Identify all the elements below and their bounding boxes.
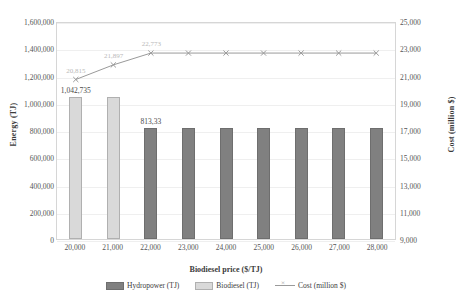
- x-tick-label: 27,000: [320, 243, 358, 252]
- x-tick-label: 24,000: [207, 243, 245, 252]
- legend-item[interactable]: Cost (million $): [275, 281, 346, 290]
- y-tick-label-right: 15,000: [400, 154, 421, 163]
- y-tick-label-right: 23,000: [400, 45, 421, 54]
- cost-value-label: 21,897: [104, 52, 123, 60]
- cost-value-label: 20,815: [66, 67, 85, 75]
- x-tick-label: 23,000: [169, 243, 207, 252]
- legend-line-swatch: [275, 282, 295, 289]
- y-axis-ticks-right: 9,00011,00013,00015,00017,00019,00021,00…: [398, 22, 444, 240]
- x-tick-label: 22,000: [132, 243, 170, 252]
- x-axis-title: Biodiesel price ($/TJ): [56, 265, 396, 274]
- y-axis-title-right: Cost (million $): [447, 80, 456, 170]
- x-tick-label: 25,000: [245, 243, 283, 252]
- x-tick-label: 28,000: [358, 243, 396, 252]
- x-tick-label: 21,000: [94, 243, 132, 252]
- y-tick-label-right: 11,000: [400, 208, 420, 217]
- y-tick-label-right: 13,000: [400, 181, 421, 190]
- legend-swatch-biodiesel: [195, 282, 213, 290]
- legend-label: Biodiesel (TJ): [216, 281, 259, 290]
- y-axis-ticks-left: 0200,000400,000600,000800,0001,000,0001,…: [8, 22, 54, 240]
- y-tick-label-right: 9,000: [400, 236, 417, 245]
- y-tick-label-right: 19,000: [400, 99, 421, 108]
- gridline: [57, 241, 395, 242]
- y-tick-label-right: 17,000: [400, 127, 421, 136]
- y-tick-label-left: 1,000,000: [24, 99, 54, 108]
- legend-label: Cost (million $): [298, 281, 346, 290]
- x-tick-label: 20,000: [56, 243, 94, 252]
- y-tick-label-left: 600,000: [30, 154, 54, 163]
- y-tick-label-left: 400,000: [30, 181, 54, 190]
- y-tick-label-right: 25,000: [400, 18, 421, 27]
- legend-label: Hydropower (TJ): [127, 281, 179, 290]
- y-tick-label-left: 800,000: [30, 127, 54, 136]
- y-tick-label-left: 1,400,000: [24, 45, 54, 54]
- y-tick-label-left: 200,000: [30, 208, 54, 217]
- y-tick-label-right: 21,000: [400, 72, 421, 81]
- x-axis-ticks: 20,00021,00022,00023,00024,00025,00026,0…: [56, 243, 396, 252]
- chart-legend: Hydropower (TJ)Biodiesel (TJ)Cost (milli…: [0, 281, 452, 290]
- legend-item[interactable]: Hydropower (TJ): [106, 281, 179, 290]
- y-tick-label-left: 0: [50, 236, 54, 245]
- y-tick-label-left: 1,200,000: [24, 72, 54, 81]
- y-tick-label-left: 1,600,000: [24, 18, 54, 27]
- x-tick-label: 26,000: [283, 243, 321, 252]
- plot-area: 1,042,735813,33 20,81521,89722,773: [56, 22, 396, 240]
- cost-value-label: 22,773: [142, 40, 161, 48]
- legend-item[interactable]: Biodiesel (TJ): [195, 281, 259, 290]
- legend-swatch-hydropower: [106, 282, 124, 290]
